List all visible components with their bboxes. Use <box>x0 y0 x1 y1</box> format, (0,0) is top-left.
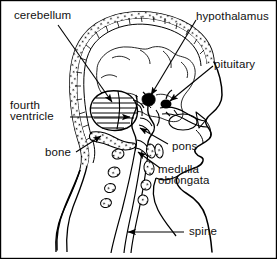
leader-line-pituitary <box>170 66 213 101</box>
label-pituitary: pituitary <box>214 59 255 71</box>
figure-border <box>1 1 277 259</box>
anatomy-diagram: cerebellum hypothalamus pituitary fourth… <box>0 0 277 259</box>
cerebellum-structure <box>90 91 138 131</box>
label-medulla-line2: oblongata <box>158 175 209 187</box>
skull-base-bone <box>89 132 135 150</box>
label-cerebellum: cerebellum <box>14 10 71 22</box>
label-spine: spine <box>189 226 217 238</box>
label-hypothalamus: hypothalamus <box>196 11 269 23</box>
label-pons: pons <box>172 141 197 153</box>
label-fourth-ventricle-line2: ventricle <box>10 111 54 123</box>
posterior-neck-contour <box>56 166 87 252</box>
head-cross-section-illustration <box>0 0 277 259</box>
label-bone: bone <box>45 147 71 159</box>
pituitary-structure <box>161 90 173 109</box>
